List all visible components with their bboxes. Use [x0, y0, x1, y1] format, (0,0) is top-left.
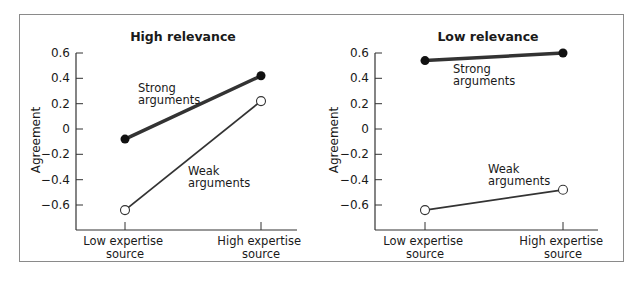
y-tick-labels: 0.6 0.4 0.2 0 −0.2 −0.4 −0.6 [41, 46, 70, 212]
series-weak-arguments [121, 97, 266, 215]
panel-low-relevance: Low relevance 0.6 0.4 0.2 0 −0.2 −0.4 −0… [327, 29, 607, 261]
data-point [559, 49, 568, 58]
y-tick-label: −0.4 [340, 173, 369, 187]
y-tick-label: −0.6 [41, 198, 70, 212]
panel-high-relevance: High relevance 0.6 0.4 0.2 0 −0.2 −0.4 −… [29, 29, 305, 261]
y-tick-label: −0.6 [340, 198, 369, 212]
data-point [121, 206, 130, 215]
y-tick-label: 0.6 [51, 46, 70, 60]
figure-canvas: High relevance 0.6 0.4 0.2 0 −0.2 −0.4 −… [0, 0, 641, 291]
annotation-strong-arguments: Strong arguments [453, 62, 515, 88]
data-point [421, 206, 430, 215]
y-tick-label: 0.4 [51, 71, 70, 85]
x-category-label: High expertise source [519, 234, 606, 261]
y-tick-label: 0.4 [350, 71, 369, 85]
x-category-label: High expertise source [217, 234, 304, 261]
y-tick-label: −0.2 [41, 147, 70, 161]
x-category-label: Low expertise source [83, 234, 167, 261]
chart-title: Low relevance [437, 29, 538, 44]
y-tick-label: −0.2 [340, 147, 369, 161]
x-category-label: Low expertise source [383, 234, 467, 261]
y-tick-label: 0.6 [350, 46, 369, 60]
y-tick-label: −0.4 [41, 173, 70, 187]
y-tick-labels: 0.6 0.4 0.2 0 −0.2 −0.4 −0.6 [340, 46, 369, 212]
y-tick-label: 0.2 [51, 97, 70, 111]
y-axis-label: Agreement [327, 106, 341, 173]
y-ticks [375, 53, 382, 205]
data-point [421, 56, 430, 65]
annotation-strong-arguments: Strong arguments [138, 81, 200, 107]
data-point [257, 97, 266, 106]
y-ticks [76, 53, 83, 205]
series-weak-arguments [421, 185, 568, 214]
y-tick-label: 0.2 [350, 97, 369, 111]
y-tick-label: 0 [361, 122, 369, 136]
chart-title: High relevance [130, 29, 236, 44]
data-point [121, 135, 130, 144]
annotation-weak-arguments: Weak arguments [188, 164, 250, 190]
annotation-weak-arguments: Weak arguments [488, 162, 550, 188]
y-axis-label: Agreement [29, 106, 43, 173]
data-point [559, 185, 568, 194]
data-point [257, 71, 266, 80]
y-tick-label: 0 [62, 122, 70, 136]
